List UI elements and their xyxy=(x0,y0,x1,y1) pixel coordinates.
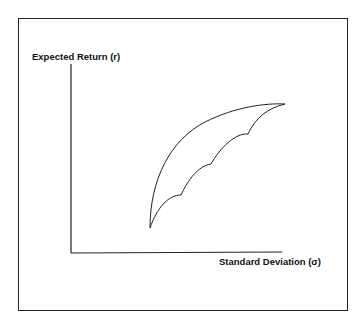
lower-scalloped-boundary xyxy=(150,104,285,228)
efficient-frontier-curve xyxy=(150,104,285,228)
plot-area xyxy=(0,0,363,331)
x-axis xyxy=(71,252,282,253)
